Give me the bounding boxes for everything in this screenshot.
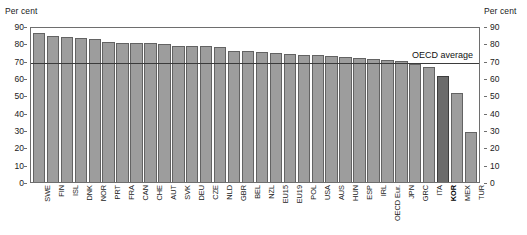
bar-jpn: [395, 61, 407, 182]
y-tickmark: [484, 131, 487, 132]
bar-gbr: [228, 51, 240, 182]
bar-svk: [172, 46, 184, 182]
bar-dnk: [75, 38, 87, 182]
x-label-cze: CZE: [200, 184, 212, 235]
y-tick-right-80: 80: [490, 39, 499, 49]
bar-grc: [409, 64, 421, 182]
x-label-swe: SWE: [32, 184, 44, 235]
y-tickmark: [24, 166, 27, 167]
bar-oecd-eur: [381, 60, 393, 182]
y-tick-left-50: 50: [15, 91, 24, 101]
x-label-eu15: EU15: [270, 184, 282, 235]
bar-mex: [451, 93, 463, 182]
y-tickmark: [24, 96, 27, 97]
x-label-aus: AUS: [326, 184, 338, 235]
x-label-hun: HUN: [340, 184, 352, 235]
x-label-nld: NLD: [214, 184, 226, 235]
y-tickmark: [484, 166, 487, 167]
y-tick-left-80: 80: [15, 39, 24, 49]
bar-che: [144, 43, 156, 182]
y-tickmark: [24, 131, 27, 132]
y-tick-right-30: 30: [490, 126, 499, 136]
x-label-esp: ESP: [354, 184, 366, 235]
x-label-gbr: GBR: [228, 184, 240, 235]
x-label-eu19: EU19: [284, 184, 296, 235]
x-label-aut: AUT: [158, 184, 170, 235]
y-tickmark: [484, 62, 487, 63]
bar-bel: [242, 51, 254, 182]
x-label-kor: KOR: [438, 184, 450, 235]
y-tick-right-40: 40: [490, 109, 499, 119]
x-label-fin: FIN: [46, 184, 58, 235]
bar-pol: [298, 55, 310, 182]
y-tickmark: [24, 44, 27, 45]
x-label-can: CAN: [130, 184, 142, 235]
oecd-average-label: OECD average: [410, 50, 475, 60]
y-axis-unit-right: Per cent: [484, 6, 516, 16]
x-axis-category-labels: SWEFINISLDNKNORPRTFRACANCHEAUTSVKDEUCZEN…: [30, 184, 480, 235]
x-label-oecd-eur: OECD Eur.: [382, 184, 394, 235]
bar-aut: [158, 44, 170, 182]
bar-can: [130, 43, 142, 182]
y-tick-right-60: 60: [490, 74, 499, 84]
x-label-grc: GRC: [410, 184, 422, 235]
y-tick-left-30: 30: [15, 126, 24, 136]
y-tick-right-10: 10: [490, 161, 499, 171]
y-tick-left-60: 60: [15, 74, 24, 84]
y-tickmark: [484, 96, 487, 97]
bar-nor: [89, 39, 101, 182]
y-tick-left-70: 70: [15, 57, 24, 67]
y-tick-right-50: 50: [490, 91, 499, 101]
x-label-jpn: JPN: [396, 184, 408, 235]
bar-ita: [423, 67, 435, 182]
y-tickmark: [24, 79, 27, 80]
y-tick-left-40: 40: [15, 109, 24, 119]
y-tick-right-20: 20: [490, 143, 499, 153]
y-tickmark: [24, 183, 27, 184]
y-axis-right: 9080706050403020100: [484, 27, 514, 183]
x-label-pol: POL: [298, 184, 310, 235]
y-tick-left-10: 10: [15, 161, 24, 171]
y-axis-unit-left: Per cent: [5, 6, 37, 16]
bar-fin: [47, 36, 59, 182]
bar-eu15: [270, 53, 282, 182]
y-tick-right-70: 70: [490, 57, 499, 67]
y-axis-left: 9080706050403020100: [0, 27, 27, 183]
x-label-tur: TUR: [466, 184, 478, 235]
bar-usa: [312, 55, 324, 182]
x-label-dnk: DNK: [74, 184, 86, 235]
y-tickmark: [484, 114, 487, 115]
y-tickmark: [24, 148, 27, 149]
x-label-che: CHE: [144, 184, 156, 235]
bar-kor: [437, 76, 449, 182]
x-label-nzl: NZL: [256, 184, 268, 235]
y-tickmark: [484, 79, 487, 80]
x-label-deu: DEU: [186, 184, 198, 235]
bar-esp: [353, 58, 365, 182]
bar-deu: [186, 46, 198, 182]
x-label-isl: ISL: [60, 184, 72, 235]
oecd-employment-bar-chart: Per cent Per cent 9080706050403020100 90…: [0, 0, 527, 235]
y-tick-left-90: 90: [15, 22, 24, 32]
x-label-ita: ITA: [424, 184, 436, 235]
y-tickmark: [24, 27, 27, 28]
x-label-usa: USA: [312, 184, 324, 235]
bar-tur: [465, 132, 477, 182]
y-tickmark: [484, 44, 487, 45]
bar-aus: [325, 56, 337, 182]
x-label-svk: SVK: [172, 184, 184, 235]
y-tick-right-90: 90: [490, 22, 499, 32]
x-label-mex: MEX: [452, 184, 464, 235]
y-tickmark: [484, 148, 487, 149]
bar-isl: [61, 37, 73, 182]
y-tick-left-20: 20: [15, 143, 24, 153]
bar-hun: [339, 57, 351, 182]
y-tickmark: [484, 183, 487, 184]
x-label-fra: FRA: [116, 184, 128, 235]
x-label-text: TUR: [477, 185, 486, 200]
x-label-bel: BEL: [242, 184, 254, 235]
bar-eu19: [284, 54, 296, 182]
bar-nzl: [256, 52, 268, 182]
bar-swe: [33, 33, 45, 182]
bar-irl: [367, 59, 379, 182]
